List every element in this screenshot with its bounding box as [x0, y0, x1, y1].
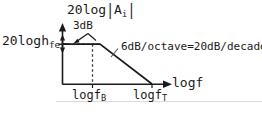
x-axis	[63, 81, 173, 88]
three-db-annotation: 3dB	[73, 20, 93, 31]
transition-frequency-prefix: logf	[133, 88, 162, 102]
y-axis-title-bar-open: |	[106, 1, 114, 17]
y-axis-title-prefix: 20log	[67, 2, 106, 17]
gain-level-prefix: 20logh	[2, 33, 49, 48]
y-axis-title-bar-close: |	[127, 1, 135, 17]
y-axis-title-quantity: A	[114, 2, 122, 17]
break-frequency-subscript: B	[101, 93, 106, 103]
bode-plot-figure: 20log|Ai| 20loghfe 3dB 6dB/octave=20dB/d…	[0, 0, 262, 113]
break-frequency-label: logfB	[72, 89, 106, 101]
three-db-leader	[74, 34, 97, 44]
slope-annotation: 6dB/octave=20dB/decade	[121, 41, 262, 52]
gain-level-subscript: fe	[49, 39, 60, 50]
break-frequency-prefix: logf	[72, 88, 101, 102]
y-axis-title: 20log|Ai|	[67, 3, 135, 16]
gain-level-label: 20loghfe	[2, 34, 60, 47]
transition-frequency-subscript: T	[162, 93, 167, 103]
x-axis-title: logf	[172, 76, 203, 89]
transition-frequency-label: logfT	[133, 89, 167, 101]
y-axis	[59, 23, 66, 85]
